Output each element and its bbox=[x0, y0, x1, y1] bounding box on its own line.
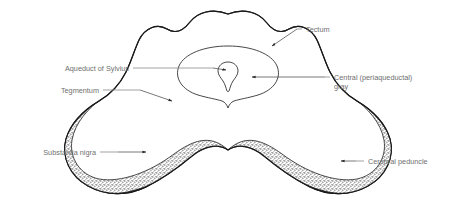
label-tectum: Tectum bbox=[306, 25, 330, 34]
midbrain-outline-group bbox=[65, 11, 392, 193]
label-tegmentum: Tegmentum bbox=[61, 86, 99, 95]
label-cerebral-peduncle: Cerebral peduncle bbox=[368, 157, 428, 166]
label-central-periaqueductal-gray-line1: Central (periaqueductal) bbox=[334, 73, 412, 82]
label-aqueduct-of-sylvius: Aqueduct of Sylvius bbox=[65, 64, 129, 73]
label-central-periaqueductal-gray-line2: gray bbox=[334, 82, 349, 91]
label-substantia-nigra: Substantia nigra bbox=[43, 148, 97, 157]
midbrain-outline bbox=[65, 11, 392, 193]
midbrain-cross-section-diagram: Tectum Central (periaqueductal) gray Aqu… bbox=[0, 0, 456, 211]
